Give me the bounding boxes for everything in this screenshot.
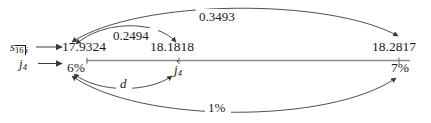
rate-symbol: j4	[19, 57, 27, 72]
axis-value-middle: 18.1818	[150, 40, 194, 54]
accumulation-symbol-rate: i	[26, 45, 28, 55]
axis-rate-middle-sub: 4	[178, 68, 182, 78]
axis-rate-middle: j4	[174, 63, 182, 78]
arc-label-inner-bottom: d	[120, 77, 127, 90]
axis-value-right: 18.2817	[372, 40, 416, 54]
axis-rate-left: 6%	[67, 61, 85, 75]
accumulation-symbol: s16i	[10, 40, 28, 55]
arc-label-outer-top: 0.3493	[199, 10, 235, 23]
axis-rate-middle-symbol: j	[174, 63, 178, 76]
axis-value-left: 17.9324	[62, 40, 106, 54]
rate-symbol-sub: 4	[23, 62, 27, 72]
arc-label-inner-top: 0.2494	[113, 29, 149, 42]
arc-label-outer-bottom: 1%	[208, 101, 225, 114]
dot-accent-icon	[177, 60, 179, 62]
axis-rate-middle-base: j	[174, 62, 178, 77]
axis-rate-right: 7%	[391, 61, 409, 75]
accumulation-symbol-period: 16	[15, 45, 26, 55]
